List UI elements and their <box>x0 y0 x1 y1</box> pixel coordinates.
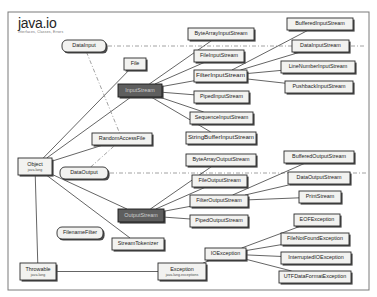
node-label: OutputStream <box>124 212 158 218</box>
node-bufferedinputstream[interactable]: BufferedInputStream <box>287 18 355 32</box>
node-label: InterruptedIOException <box>288 254 343 260</box>
edge-filterinputstream-to-pushbackinputstream <box>247 79 285 83</box>
diagram-canvas: DataInputFileInputStreamRandomAccessFile… <box>0 0 377 297</box>
node-package-label: java.lang.exceptions <box>165 273 199 277</box>
edge-filterinputstream-to-linenumberinputstream <box>247 70 281 73</box>
node-label: PipedInputStream <box>200 93 244 99</box>
node-label: DataOutput <box>70 169 98 175</box>
node-ioexception[interactable]: IOException <box>205 248 248 262</box>
edge-object-to-throwable <box>35 175 38 263</box>
node-label: FileNotFoundException <box>287 235 343 241</box>
edge-object-to-inputstream <box>47 97 131 158</box>
edge-filteroutputstream-to-printstream <box>248 198 299 200</box>
node-label: RandomAccessFile <box>99 135 145 141</box>
node-label: FilterInputStream <box>196 72 246 78</box>
node-filenamefilter[interactable]: FilenameFilter <box>57 227 105 241</box>
node-label: DataOutputStream <box>297 174 342 180</box>
node-label: FileInputStream <box>200 52 239 58</box>
node-filteroutputstream[interactable]: FilterOutputStream <box>190 195 250 209</box>
node-label: FilterOutputStream <box>196 197 242 203</box>
node-label: ByteArrayInputStream <box>194 30 248 36</box>
page-subtitle: Interfaces, Classes, Errors <box>18 30 63 34</box>
node-exception[interactable]: Exceptionjava.lang.exceptions <box>158 263 208 282</box>
node-label: FileOutputStream <box>198 177 241 183</box>
node-label: PushbackInputStream <box>292 83 346 89</box>
node-file[interactable]: File <box>124 58 148 72</box>
edge-ioexception-to-filenotfoundexception <box>246 245 281 251</box>
java-io-class-diagram: DataInputFileInputStreamRandomAccessFile… <box>0 0 377 297</box>
node-label: SequenceInputStream <box>195 114 249 120</box>
node-utfdataformatexception[interactable]: UTFDataFormatException <box>279 271 353 285</box>
node-object[interactable]: Objectjava.lang <box>18 158 54 177</box>
node-randomaccessfile[interactable]: RandomAccessFile <box>92 133 154 147</box>
node-filenotfoundexception[interactable]: FileNotFoundException <box>281 233 351 247</box>
node-fileoutputstream[interactable]: FileOutputStream <box>192 175 249 189</box>
edge-object-to-randomaccessfile <box>52 145 103 161</box>
node-pipedoutputstream[interactable]: PipedOutputStream <box>190 215 250 229</box>
node-eofexception[interactable]: EOFException <box>294 214 342 228</box>
edge-outputstream-to-filteroutputstream <box>164 206 190 211</box>
node-bytearrayoutputstream[interactable]: ByteArrayOutputStream <box>186 154 258 168</box>
node-linenumberinputstream[interactable]: LineNumberInputStream <box>281 61 357 75</box>
edge-inputstream-to-filterinputstream <box>162 81 194 87</box>
node-bufferedoutputstream[interactable]: BufferedOutputStream <box>284 151 356 165</box>
node-inputstream[interactable]: InputStream <box>118 84 164 99</box>
node-label: StreamTokenizer <box>118 240 159 246</box>
node-label: StringBufferInputStream <box>188 134 255 140</box>
node-label: InputStream <box>125 87 155 93</box>
node-label: ByteArrayOutputStream <box>192 156 250 162</box>
node-label: Exception <box>170 266 194 272</box>
node-label: File <box>131 60 140 66</box>
node-label: PrintStream <box>306 193 335 199</box>
edge-inputstream-to-pipedinputstream <box>162 92 194 95</box>
node-datainputstream[interactable]: DataInputStream <box>292 40 351 54</box>
node-datainput[interactable]: DataInput <box>62 40 108 54</box>
node-stringbufferinputstream[interactable]: StringBufferInputStream <box>186 132 258 146</box>
edge-ioexception-to-interruptedioexception <box>246 255 281 257</box>
edge-filteroutputstream-to-dataoutputstream <box>245 184 293 195</box>
node-outputstream[interactable]: OutputStream <box>118 209 166 224</box>
node-label: IOException <box>211 250 240 256</box>
node-dataoutputstream[interactable]: DataOutputStream <box>288 172 352 186</box>
edge-dataoutput-to-randomaccessfile <box>91 145 116 167</box>
node-label: FilenameFilter <box>63 229 97 235</box>
node-printstream[interactable]: PrintStream <box>299 191 343 205</box>
node-label: DataInput <box>72 42 96 48</box>
edge-outputstream-to-pipedoutputstream <box>164 217 190 219</box>
diagram-title-group: java.io Interfaces, Classes, Errors <box>17 15 63 34</box>
node-filterinputstream[interactable]: FilterInputStream <box>194 70 249 84</box>
node-pipedinputstream[interactable]: PipedInputStream <box>194 91 251 105</box>
node-streamtokenizer[interactable]: StreamTokenizer <box>112 238 166 252</box>
node-label: EOFException <box>300 216 335 222</box>
edge-datainput-to-randomaccessfile <box>86 52 119 133</box>
node-label: UTFDataFormatException <box>284 273 347 279</box>
node-label: Object <box>27 161 43 167</box>
node-throwable[interactable]: Throwablejava.lang <box>20 263 58 282</box>
node-pushbackinputstream[interactable]: PushbackInputStream <box>285 81 355 95</box>
node-label: BufferedOutputStream <box>292 153 346 159</box>
node-bytearrayinputstream[interactable]: ByteArrayInputStream <box>188 28 256 42</box>
node-sequenceinputstream[interactable]: SequenceInputStream <box>190 112 255 126</box>
node-label: PipedOutputStream <box>195 217 243 223</box>
node-label: Throwable <box>25 266 50 272</box>
node-fileinputstream[interactable]: FileInputStream <box>194 50 246 64</box>
node-dataoutput[interactable]: DataOutput <box>60 167 110 181</box>
node-label: BufferedInputStream <box>295 20 345 26</box>
node-interruptedioexception[interactable]: InterruptedIOException <box>281 252 353 266</box>
node-label: LineNumberInputStream <box>289 63 348 69</box>
node-label: DataInputStream <box>300 42 341 48</box>
node-package-label: java.lang <box>27 168 42 172</box>
node-package-label: java.lang <box>30 273 45 277</box>
page-title: java.io <box>17 15 57 31</box>
